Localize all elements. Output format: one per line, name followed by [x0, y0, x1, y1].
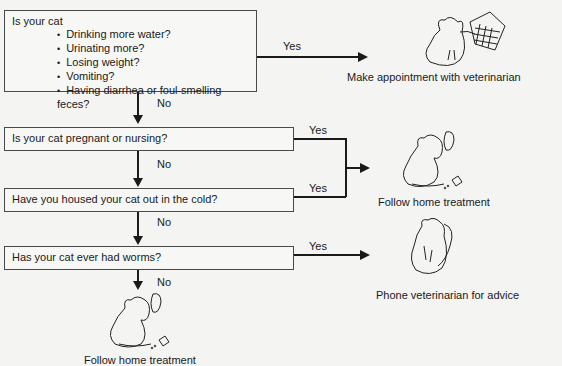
- arrow-down-icon: [133, 236, 143, 245]
- no-connector-3: [137, 212, 139, 239]
- cat-phone-illustration: [400, 216, 470, 276]
- outcome-bottom-home-treatment: Follow home treatment: [84, 354, 196, 366]
- yes-label-3: Yes: [309, 182, 327, 194]
- arrow-right-icon: [358, 52, 368, 62]
- symptom-list: Drinking more water? Urinating more? Los…: [12, 28, 249, 111]
- cat-calendar-illustration: [420, 10, 520, 68]
- arrow-down-icon: [133, 281, 143, 290]
- cat-drinking-illustration: [105, 292, 185, 352]
- question-text: Is your cat pregnant or nursing?: [12, 132, 167, 144]
- yes-label-1: Yes: [283, 40, 301, 52]
- symptom-item: Drinking more water?: [57, 28, 249, 42]
- question-box-worms: Has your cat ever had worms?: [4, 246, 294, 270]
- yes-connector-4: [294, 254, 362, 256]
- outcome-phone-vet: Phone veterinarian for advice: [376, 289, 519, 301]
- yes-connector-3: [294, 196, 346, 198]
- cat-drinking-illustration: [398, 130, 478, 192]
- question-text: Has your cat ever had worms?: [12, 251, 161, 263]
- arrow-down-icon: [133, 115, 143, 124]
- yes-label-4: Yes: [309, 240, 327, 252]
- outcome-appointment: Make appointment with veterinarian: [347, 71, 521, 83]
- no-label-3: No: [157, 216, 171, 228]
- outcome-home-treatment: Follow home treatment: [378, 196, 490, 208]
- question-box-symptoms: Is your cat Drinking more water? Urinati…: [4, 10, 257, 92]
- symptom-item: Vomiting?: [57, 70, 249, 84]
- yes-connector-2: [294, 138, 346, 140]
- no-label-4: No: [157, 276, 171, 288]
- question-box-pregnant: Is your cat pregnant or nursing?: [4, 127, 294, 151]
- no-label-1: No: [157, 97, 171, 109]
- yes-label-2: Yes: [309, 124, 327, 136]
- arrow-right-icon: [360, 163, 370, 173]
- symptom-item: Having diarrhea or foul-smelling feces?: [57, 84, 249, 111]
- question-intro: Is your cat: [12, 15, 249, 28]
- yes-connector-1: [257, 56, 361, 58]
- arrow-down-icon: [133, 178, 143, 187]
- question-text: Have you housed your cat out in the cold…: [12, 193, 217, 205]
- symptom-item: Urinating more?: [57, 42, 249, 56]
- no-label-2: No: [157, 158, 171, 170]
- question-box-cold: Have you housed your cat out in the cold…: [4, 188, 294, 212]
- symptom-item: Losing weight?: [57, 56, 249, 70]
- no-connector-2: [137, 151, 139, 181]
- arrow-right-icon: [360, 250, 370, 260]
